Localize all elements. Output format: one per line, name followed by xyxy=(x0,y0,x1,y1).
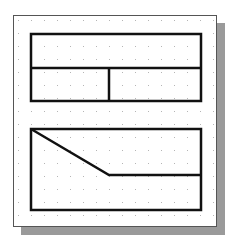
grid-dots xyxy=(18,20,214,216)
bottom-rectangle xyxy=(31,129,201,210)
diagonal-step-line xyxy=(31,129,201,175)
drawing-canvas xyxy=(0,0,233,246)
